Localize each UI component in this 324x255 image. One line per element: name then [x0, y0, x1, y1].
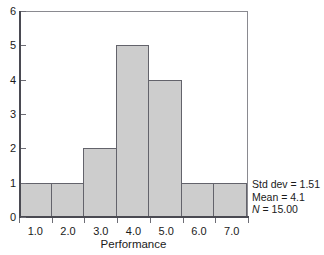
x-tick-edge-2	[84, 218, 85, 223]
stat-n-value: = 15.00	[260, 203, 298, 215]
x-tick-label-6: 6.0	[182, 226, 216, 237]
x-tick-edge-0	[19, 218, 20, 223]
stat-n: N = 15.00	[252, 203, 324, 216]
x-tick-edge-7	[248, 218, 249, 223]
x-tick-edge-4	[150, 218, 151, 223]
stats-annotation: Std dev = 1.51 Mean = 4.1 N = 15.00	[252, 178, 324, 216]
x-tick-edge-3	[117, 218, 118, 223]
bar-1	[19, 183, 52, 217]
x-tick-label-1: 1.0	[18, 226, 52, 237]
y-tick-1	[21, 183, 26, 184]
y-tick-6	[21, 11, 26, 12]
bar-2	[51, 183, 84, 217]
y-tick-0	[21, 217, 26, 218]
x-tick-label-2: 2.0	[51, 226, 85, 237]
y-tick-label-4: 4	[1, 75, 16, 86]
bar-4	[116, 45, 149, 217]
x-tick-edge-1	[52, 218, 53, 223]
y-tick-label-2: 2	[1, 143, 16, 154]
y-tick-5	[21, 45, 26, 46]
y-tick-4	[21, 80, 26, 81]
y-tick-3	[21, 114, 26, 115]
y-tick-label-6: 6	[1, 6, 16, 17]
bar-6	[181, 183, 214, 217]
stat-std-dev: Std dev = 1.51	[252, 178, 324, 191]
histogram-figure: 6 5 4 3 2 1 0 1.0 2.0 3.0 4.0 5.0 6.0 7.…	[0, 0, 324, 255]
bar-5	[148, 80, 182, 217]
stat-mean: Mean = 4.1	[252, 191, 324, 204]
y-tick-2	[21, 148, 26, 149]
y-tick-label-5: 5	[1, 40, 16, 51]
y-tick-label-0: 0	[1, 212, 16, 223]
bar-3	[83, 148, 117, 217]
y-tick-label-3: 3	[1, 109, 16, 120]
x-tick-label-7: 7.0	[215, 226, 249, 237]
stat-n-symbol: N	[252, 203, 260, 215]
bar-7	[213, 183, 247, 217]
x-tick-label-4: 4.0	[117, 226, 151, 237]
x-axis-title: Performance	[19, 238, 248, 250]
y-tick-labels: 6 5 4 3 2 1 0	[0, 0, 16, 255]
x-tick-edge-5	[183, 218, 184, 223]
bars-layer	[19, 11, 248, 217]
x-tick-edge-6	[215, 218, 216, 223]
x-tick-label-5: 5.0	[149, 226, 183, 237]
x-tick-label-3: 3.0	[84, 226, 118, 237]
y-tick-label-1: 1	[1, 178, 16, 189]
